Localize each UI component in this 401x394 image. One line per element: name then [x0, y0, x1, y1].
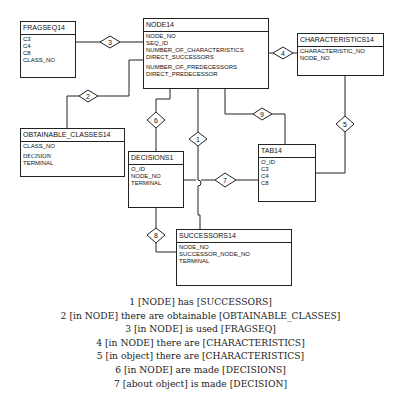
attribute: TERMINAL [179, 258, 289, 265]
attribute: NODE_NO [131, 173, 181, 180]
entity-attributes: CLASS_NO DECISION TERMINAL [21, 142, 124, 168]
entity-title: OBTAINABLE_CLASSES14 [21, 129, 124, 142]
entity-decisions1: DECISIONS1 O_ID NODE_NO TERMINAL [128, 151, 184, 208]
attribute: DIRECT_SUCCESSORS [146, 54, 266, 61]
legend-line: 5 [in object] there are [CHARACTERISTICS… [0, 349, 401, 363]
relationship-label-8: 8 [154, 232, 158, 239]
legend-line: 7 [about object] is made [DECISION] [0, 377, 401, 391]
entity-title: NODE14 [144, 19, 268, 32]
entity-attributes: C3 C4 C8 CLASS_NO [21, 35, 75, 65]
attribute: C8 [23, 50, 73, 57]
relationship-label-6: 6 [154, 117, 158, 124]
er-diagram: 3 2 4 5 6 9 1 7 8 FRAGSEQ14 C3 C4 C8 CLA… [0, 0, 401, 394]
attribute: CLASS_NO [23, 143, 122, 150]
relationship-label-1: 1 [196, 136, 200, 143]
attribute: O_ID [131, 166, 181, 173]
entity-title: SUCCESSORS14 [177, 230, 291, 243]
relationship-legend: 1 [NODE] has [SUCCESSORS] 2 [in NODE] th… [0, 295, 401, 390]
relationship-label-4: 4 [281, 50, 285, 57]
entity-title: FRAGSEQ14 [21, 22, 75, 35]
attribute: CLASS_NO [23, 57, 73, 64]
legend-line: 2 [in NODE] there are obtainable [OBTAIN… [0, 309, 401, 323]
attribute: NODE_NO [179, 244, 289, 251]
entity-obtainable-classes14: OBTAINABLE_CLASSES14 CLASS_NO DECISION T… [20, 128, 125, 177]
attribute: NODE_NO [146, 33, 266, 40]
entity-successors14: SUCCESSORS14 NODE_NO SUCCESSOR_NODE_NO T… [176, 229, 292, 286]
entity-tab14: TAB14 O_ID C3 C4 C8 [258, 144, 316, 202]
attribute: SUCCESSOR_NODE_NO [179, 251, 289, 258]
attribute: TERMINAL [23, 160, 122, 167]
relationship-label-2: 2 [86, 93, 90, 100]
entity-title: TAB14 [259, 145, 315, 158]
attribute: C4 [261, 173, 313, 180]
entity-attributes: O_ID C3 C4 C8 [259, 158, 315, 188]
attribute: NUMBER_OF_CHARACTERISTICS [146, 47, 266, 54]
attribute: C3 [23, 36, 73, 43]
attribute: C3 [261, 166, 313, 173]
entity-title: DECISIONS1 [129, 152, 183, 165]
legend-line: 3 [in NODE] is used [FRAGSEQ] [0, 322, 401, 336]
attribute: C4 [23, 43, 73, 50]
legend-line: 4 [in NODE] there are [CHARACTERISTICS] [0, 336, 401, 350]
attribute: NUMBER_OF_PREDECESSORS [146, 64, 266, 71]
relationship-label-7: 7 [223, 177, 227, 184]
attribute: CHARACTERISTIC_NO [300, 48, 381, 55]
relationship-label-3: 3 [108, 39, 112, 46]
attribute: SEQ_ID [146, 40, 266, 47]
entity-attributes: CHARACTERISTIC_NO NODE_NO [298, 47, 383, 63]
legend-line: 6 [in NODE] are made [DECISIONS] [0, 363, 401, 377]
attribute: NODE_NO [300, 55, 381, 62]
legend-line: 1 [NODE] has [SUCCESSORS] [0, 295, 401, 309]
entity-node14: NODE14 NODE_NO SEQ_ID NUMBER_OF_CHARACTE… [143, 18, 269, 89]
attribute: TERMINAL [131, 180, 181, 187]
entity-attributes: NODE_NO SEQ_ID NUMBER_OF_CHARACTERISTICS… [144, 32, 268, 79]
attribute: C8 [261, 180, 313, 187]
attribute: DIRECT_PREDECESSOR [146, 71, 266, 78]
relationship-label-9: 9 [260, 111, 264, 118]
entity-characteristics14: CHARACTERISTICS14 CHARACTERISTIC_NO NODE… [297, 33, 384, 76]
entity-attributes: NODE_NO SUCCESSOR_NODE_NO TERMINAL [177, 243, 291, 266]
attribute: O_ID [261, 159, 313, 166]
relationship-label-5: 5 [343, 121, 347, 128]
entity-title: CHARACTERISTICS14 [298, 34, 383, 47]
entity-fragseq14: FRAGSEQ14 C3 C4 C8 CLASS_NO [20, 21, 76, 78]
attribute: DECISION [23, 153, 122, 160]
entity-attributes: O_ID NODE_NO TERMINAL [129, 165, 183, 188]
